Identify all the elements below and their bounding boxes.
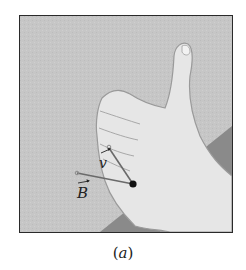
right-hand-rule-illustration: v B	[20, 16, 232, 232]
thumbnail	[182, 45, 190, 55]
figure-panel: v B	[19, 15, 233, 233]
figure-caption: (a)	[0, 244, 246, 262]
origin-dot	[129, 180, 136, 187]
svg-text:B: B	[76, 184, 88, 202]
caption-close-paren: )	[127, 244, 133, 262]
svg-text:v: v	[99, 155, 107, 171]
